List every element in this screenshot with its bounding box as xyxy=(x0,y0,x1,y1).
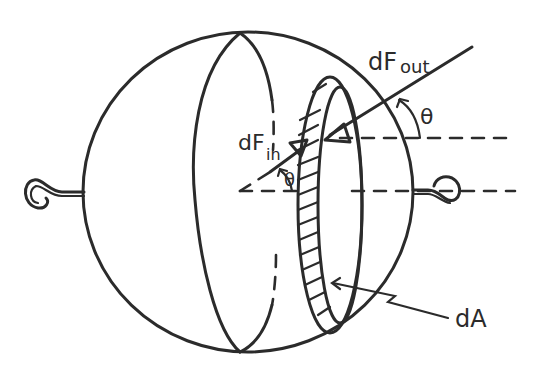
great-circle-back-bottom-dash xyxy=(272,255,276,305)
label-dA: dA xyxy=(455,305,487,333)
label-theta-outer: θ xyxy=(420,104,433,129)
label-theta-inner: θ xyxy=(284,169,295,190)
great-circle-back-top xyxy=(240,33,272,100)
label-df-out-sub: out xyxy=(400,56,429,77)
great-circle-back-bottom xyxy=(240,305,272,352)
label-df-in: dF xyxy=(238,130,265,155)
sphere-diagram: dF out θ dF in θ dA xyxy=(0,0,542,380)
label-df-out: dF xyxy=(368,48,397,76)
hook-left-inner xyxy=(31,186,84,203)
label-df-in-sub: in xyxy=(266,145,281,164)
great-circle-back-top-dash xyxy=(272,100,274,150)
great-circle-front xyxy=(193,33,240,352)
force-arrowhead-in xyxy=(290,140,307,156)
force-line-in-dashed xyxy=(240,172,270,191)
